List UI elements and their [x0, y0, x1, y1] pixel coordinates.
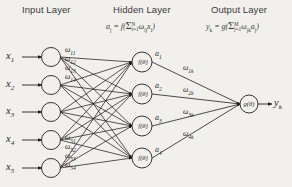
input-node-2	[42, 76, 61, 95]
input-node-4	[42, 131, 61, 150]
weight-label-w14-sub: 14	[70, 77, 76, 83]
input-nodes	[42, 48, 61, 178]
edges-hidden-output	[152, 62, 240, 158]
weight-label-w54: ω54	[65, 160, 76, 171]
input-label-3-sub: 3	[11, 111, 15, 119]
input-label-5-sub: 5	[11, 167, 15, 175]
hidden-node-4-function: f(θ)	[133, 154, 153, 161]
hidden-layer-title: Hidden Layer	[113, 4, 171, 15]
hidden-node-2-function: f(θ)	[133, 90, 153, 97]
activation-label-3-sub: 3	[159, 118, 162, 124]
input-label-1-sub: 1	[11, 56, 15, 64]
output-node-function: g(θ)	[240, 100, 258, 107]
hidden-formula-sigma-lower: i=1	[132, 27, 139, 32]
weight-label-w2k: ω2k	[183, 85, 194, 96]
activation-label-1-sub: 1	[159, 54, 162, 60]
input-node-3	[42, 103, 61, 122]
activation-label-2: a2	[155, 81, 162, 92]
output-formula-sigma-lower: j=1	[234, 27, 241, 32]
weight-label-w3k-sub: 3k	[188, 112, 193, 118]
output-layer-title: Output Layer	[211, 4, 267, 15]
input-arrows	[22, 57, 42, 168]
output-formula-eq: =	[214, 22, 221, 31]
hidden-node-1-function: f(θ)	[133, 58, 153, 65]
input-node-5	[42, 159, 61, 178]
input-label-5: x5	[6, 161, 14, 175]
input-label-4-sub: 4	[11, 139, 15, 147]
output-formula-lhs-sub: k	[210, 27, 213, 33]
weight-label-w4k-sub: 4k	[188, 134, 193, 140]
input-label-4: x4	[6, 133, 14, 147]
weight-label-w1k: ω1k	[183, 63, 194, 74]
weight-label-w54-sub: 54	[70, 165, 76, 171]
hidden-nodes	[132, 52, 152, 168]
input-label-2-sub: 2	[11, 84, 15, 92]
hidden-formula-eq: =	[113, 22, 120, 31]
input-node-1	[42, 48, 61, 67]
output-label: yk	[274, 97, 282, 111]
weight-label-w2k-sub: 2k	[188, 90, 193, 96]
activation-label-3: a3	[155, 113, 162, 124]
input-layer-title: Input Layer	[22, 4, 71, 15]
weight-label-w4k: ω4k	[183, 129, 194, 140]
hidden-formula-paren-close: )	[152, 22, 155, 31]
activation-label-4-sub: 4	[159, 150, 162, 156]
weight-label-w3k: ω3k	[183, 107, 194, 118]
input-label-1: x1	[6, 50, 14, 64]
input-label-2: x2	[6, 78, 14, 92]
output-label-sub: k	[279, 103, 282, 111]
neural-network-diagram: Input Layer Hidden Layer Output Layer aj…	[0, 0, 292, 187]
output-formula-paren-close: )	[256, 22, 259, 31]
hidden-layer-formula: aj = f(Σ N i=1 ωijxi)	[106, 20, 155, 33]
input-label-3: x3	[6, 105, 14, 119]
output-layer-formula: yk = g(Σ M j=1 ωjkaj)	[206, 20, 259, 33]
hidden-node-3-function: f(θ)	[133, 122, 153, 129]
weight-label-w1k-sub: 1k	[188, 68, 193, 74]
weight-label-w14: ω14	[65, 72, 76, 83]
activation-label-1: a1	[155, 49, 162, 60]
activation-label-4: a4	[155, 145, 162, 156]
activation-label-2-sub: 2	[159, 86, 162, 92]
hidden-formula-lhs-sub: j	[110, 27, 111, 33]
